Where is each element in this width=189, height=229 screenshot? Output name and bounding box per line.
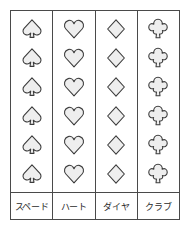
suit-column-club bbox=[138, 11, 179, 192]
suit-label-diamond: ダイヤ bbox=[96, 193, 138, 219]
spade-icon bbox=[11, 103, 52, 129]
suit-label-club: クラブ bbox=[138, 193, 179, 219]
suit-label-spade: スペード bbox=[11, 193, 53, 219]
diamond-icon bbox=[96, 45, 137, 71]
club-icon bbox=[138, 103, 179, 129]
suit-table-figure: スペード ハート ダイヤ クラブ bbox=[10, 10, 180, 220]
club-icon bbox=[138, 132, 179, 158]
diamond-icon bbox=[96, 16, 137, 42]
club-icon bbox=[138, 16, 179, 42]
heart-icon bbox=[53, 103, 94, 129]
suit-column-heart bbox=[53, 11, 95, 192]
diamond-icon bbox=[96, 74, 137, 100]
spade-icon bbox=[11, 16, 52, 42]
heart-icon bbox=[53, 45, 94, 71]
club-icon bbox=[138, 161, 179, 187]
spade-icon bbox=[11, 132, 52, 158]
spade-icon bbox=[11, 74, 52, 100]
spade-icon bbox=[11, 161, 52, 187]
suit-column-spade bbox=[11, 11, 53, 192]
diamond-icon bbox=[96, 132, 137, 158]
heart-icon bbox=[53, 161, 94, 187]
suit-column-diamond bbox=[96, 11, 138, 192]
suit-columns-area bbox=[11, 11, 179, 192]
club-icon bbox=[138, 74, 179, 100]
heart-icon bbox=[53, 16, 94, 42]
suit-labels-row: スペード ハート ダイヤ クラブ bbox=[11, 192, 179, 219]
spade-icon bbox=[11, 45, 52, 71]
club-icon bbox=[138, 45, 179, 71]
heart-icon bbox=[53, 132, 94, 158]
suit-label-heart: ハート bbox=[53, 193, 95, 219]
diamond-icon bbox=[96, 103, 137, 129]
heart-icon bbox=[53, 74, 94, 100]
diamond-icon bbox=[96, 161, 137, 187]
